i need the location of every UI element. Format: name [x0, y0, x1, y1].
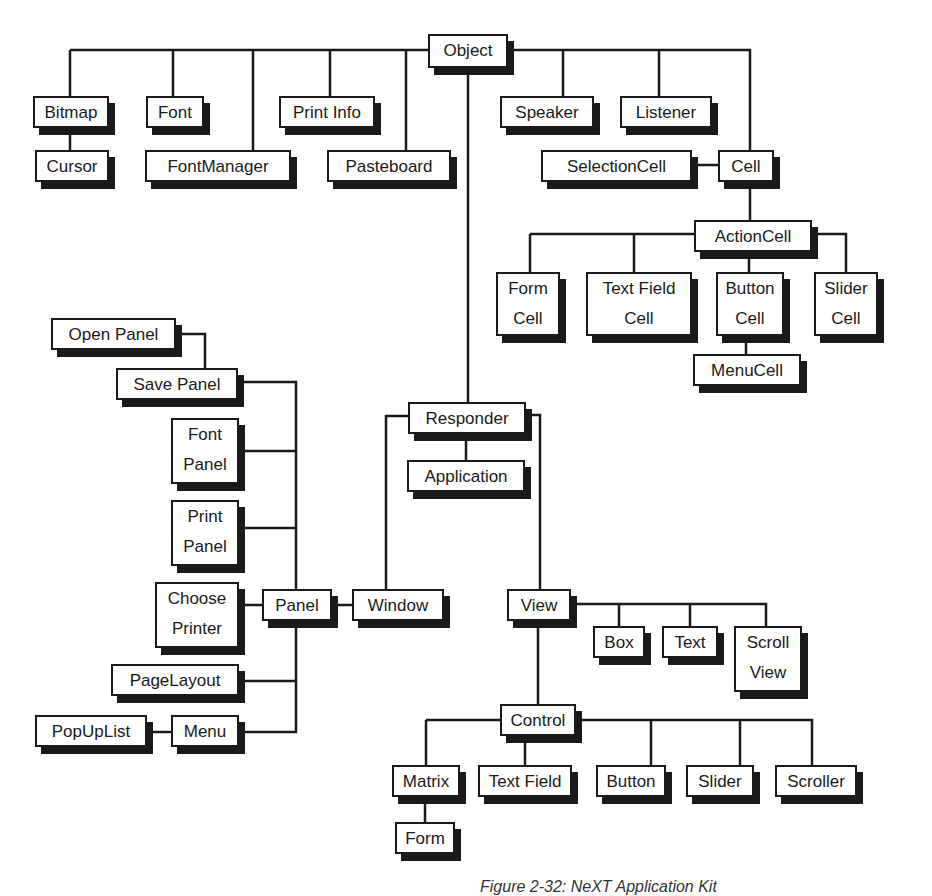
node-label-line2: Cell [592, 304, 686, 334]
node-menu: Menu [171, 715, 239, 747]
node-print-info: Print Info [279, 96, 375, 128]
node-label: Responder [425, 409, 508, 428]
node-label: Speaker [515, 103, 578, 122]
node-label-line1: Text Field [592, 274, 686, 304]
node-label-line1: Print [177, 502, 233, 532]
node-listener: Listener [620, 96, 712, 128]
node-label: Text Field [489, 772, 562, 791]
node-label: Cell [731, 157, 760, 176]
node-bitmap: Bitmap [33, 96, 109, 128]
node-text-field-cell: Text FieldCell [586, 272, 692, 336]
node-button-cell: ButtonCell [716, 272, 784, 336]
node-cell: Cell [718, 150, 774, 182]
node-selectioncell: SelectionCell [541, 150, 692, 182]
node-label: SelectionCell [567, 157, 666, 176]
node-window: Window [352, 589, 444, 621]
node-text: Text [662, 626, 718, 658]
node-pasteboard: Pasteboard [327, 150, 451, 182]
node-label-line2: Panel [177, 450, 233, 480]
node-matrix: Matrix [392, 765, 460, 797]
node-label: Slider [698, 772, 741, 791]
node-label-line1: Font [177, 420, 233, 450]
node-button: Button [596, 765, 666, 797]
node-label: Font [158, 103, 192, 122]
node-menucell: MenuCell [693, 354, 801, 386]
node-label-line2: View [740, 658, 796, 688]
node-responder: Responder [408, 402, 526, 434]
node-label: Cursor [46, 157, 97, 176]
node-label: Application [424, 467, 507, 486]
node-label-line1: Slider [820, 274, 872, 304]
node-label: PopUpList [52, 722, 130, 741]
node-label: Form [405, 829, 445, 848]
node-fontmanager: FontManager [145, 150, 291, 182]
node-label: Window [368, 596, 428, 615]
node-view: View [507, 589, 571, 621]
node-open-panel: Open Panel [51, 318, 176, 350]
node-panel: Panel [262, 589, 332, 621]
node-label: Pasteboard [346, 157, 433, 176]
node-label-line2: Cell [502, 304, 554, 334]
node-box: Box [593, 626, 645, 658]
node-cursor: Cursor [35, 150, 109, 182]
node-label: Control [511, 711, 566, 730]
node-application: Application [407, 460, 525, 492]
node-label-line2: Cell [820, 304, 872, 334]
node-label-line1: Button [722, 274, 778, 304]
node-label-line2: Cell [722, 304, 778, 334]
node-object: Object [428, 34, 508, 68]
node-font: Font [146, 96, 204, 128]
node-font-panel: FontPanel [171, 418, 239, 484]
node-label: Text [674, 633, 705, 652]
node-form-cell: FormCell [496, 272, 560, 336]
node-label: Object [443, 41, 492, 60]
node-label: Button [606, 772, 655, 791]
node-print-panel: PrintPanel [171, 500, 239, 566]
figure-caption: Figure 2-32: NeXT Application Kit [480, 878, 717, 896]
node-slider-cell: SliderCell [814, 272, 878, 336]
node-label: FontManager [167, 157, 268, 176]
node-choose-printer: ChoosePrinter [155, 582, 239, 648]
node-label-line1: Form [502, 274, 554, 304]
node-label: Listener [636, 103, 696, 122]
node-actioncell: ActionCell [694, 220, 812, 252]
node-label: Panel [275, 596, 318, 615]
node-label: Matrix [403, 772, 449, 791]
node-pagelayout: PageLayout [111, 664, 239, 696]
node-label-line2: Printer [161, 614, 233, 644]
node-save-panel: Save Panel [116, 368, 238, 400]
node-label: Print Info [293, 103, 361, 122]
node-control: Control [500, 704, 576, 736]
node-label: Box [604, 633, 633, 652]
node-label-line2: Panel [177, 532, 233, 562]
node-popuplist: PopUpList [35, 715, 147, 747]
node-label-line1: Choose [161, 584, 233, 614]
node-label: Bitmap [45, 103, 98, 122]
node-scroller: Scroller [775, 765, 857, 797]
node-label: ActionCell [715, 227, 792, 246]
node-text-field: Text Field [478, 765, 572, 797]
node-slider: Slider [686, 765, 754, 797]
node-label: MenuCell [711, 361, 783, 380]
node-form: Form [395, 822, 455, 854]
node-speaker: Speaker [500, 96, 594, 128]
node-label: Menu [184, 722, 227, 741]
node-label: Open Panel [69, 325, 159, 344]
node-label: View [521, 596, 558, 615]
node-label: Save Panel [134, 375, 221, 394]
node-label: PageLayout [130, 671, 221, 690]
node-label: Scroller [787, 772, 845, 791]
node-label-line1: Scroll [740, 628, 796, 658]
node-scroll-view: ScrollView [734, 626, 802, 692]
